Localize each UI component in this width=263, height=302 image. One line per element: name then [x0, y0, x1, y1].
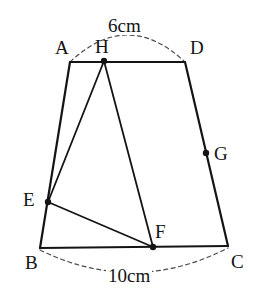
vertex-label-d: D — [190, 38, 204, 57]
point-marker-e — [45, 199, 51, 205]
vertex-label-a: A — [55, 38, 69, 57]
point-marker-f — [150, 244, 156, 250]
dimension-label-bottom: 10cm — [106, 266, 152, 285]
vertex-label-b: B — [25, 253, 38, 272]
point-marker-h — [101, 58, 107, 64]
point-marker-g — [203, 150, 209, 156]
segment-he — [48, 61, 104, 202]
vertex-label-g: G — [214, 144, 228, 163]
segment-hf — [104, 61, 153, 247]
geometry-figure: A B C D E F G H 6cm 10cm — [0, 0, 263, 302]
vertex-label-h: H — [95, 37, 109, 56]
vertex-label-c: C — [231, 252, 244, 271]
vertex-label-e: E — [23, 190, 35, 209]
segment-ab — [40, 62, 70, 248]
vertex-label-f: F — [155, 222, 166, 241]
segment-ef — [48, 202, 153, 247]
dimension-label-top: 6cm — [106, 16, 143, 35]
dimension-arc-top — [70, 35, 185, 62]
segment-bc — [40, 246, 228, 248]
